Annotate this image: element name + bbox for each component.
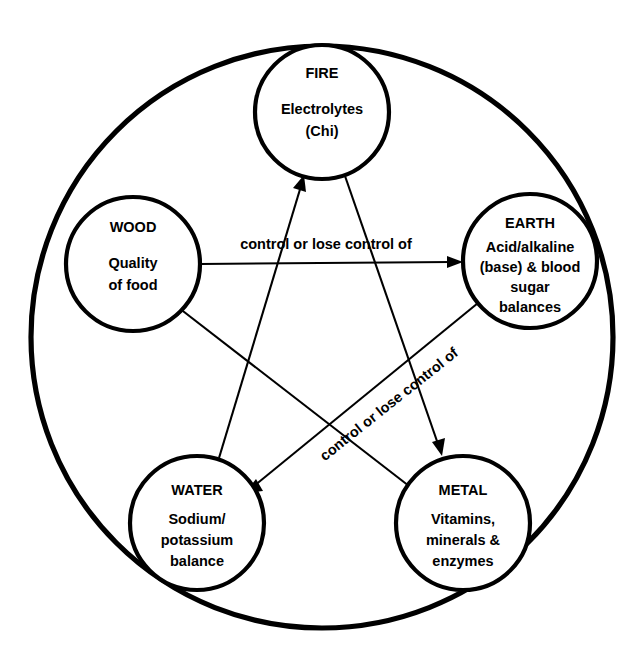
node-title-fire: FIRE xyxy=(305,65,338,81)
node-desc-earth-line-0: Acid/alkaline xyxy=(486,239,575,255)
node-water[interactable]: WATER Sodium/ potassium balance xyxy=(130,456,264,590)
node-desc-fire-line-0: Electrolytes xyxy=(281,101,363,117)
node-title-metal: METAL xyxy=(439,482,488,498)
node-wood[interactable]: WOOD Quality of food xyxy=(66,197,200,331)
node-desc-metal-line-2: enzymes xyxy=(432,553,493,569)
node-desc-earth-line-1: (base) & blood xyxy=(480,259,581,275)
edge-label-horizontal: control or lose control of xyxy=(240,236,412,252)
node-desc-fire-line-1: (Chi) xyxy=(305,123,338,139)
node-title-water: WATER xyxy=(171,482,223,498)
node-desc-earth-line-3: balances xyxy=(499,299,561,315)
node-desc-water-line-1: potassium xyxy=(161,532,234,548)
node-title-earth: EARTH xyxy=(505,215,555,231)
node-desc-earth-line-2: sugar xyxy=(510,279,550,295)
node-desc-water-line-2: balance xyxy=(170,553,224,569)
diagram-canvas: control or lose control of control or lo… xyxy=(0,0,641,663)
node-fire[interactable]: FIRE Electrolytes (Chi) xyxy=(255,45,389,179)
node-desc-metal-line-1: minerals & xyxy=(426,532,501,548)
node-title-wood: WOOD xyxy=(110,219,157,235)
node-desc-water-line-0: Sodium/ xyxy=(168,511,225,527)
node-earth[interactable]: EARTH Acid/alkaline (base) & blood sugar… xyxy=(463,194,597,328)
node-metal[interactable]: METAL Vitamins, minerals & enzymes xyxy=(396,456,530,590)
node-desc-metal-line-0: Vitamins, xyxy=(431,511,495,527)
five-element-diagram: control or lose control of control or lo… xyxy=(0,0,641,663)
node-desc-wood-line-0: Quality xyxy=(108,255,157,271)
node-desc-wood-line-1: of food xyxy=(108,277,157,293)
